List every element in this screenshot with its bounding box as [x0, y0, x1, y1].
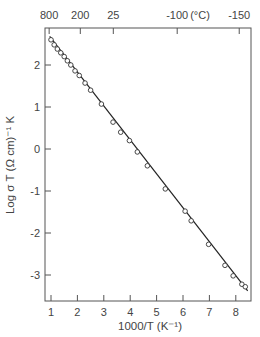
- top-tick-label: -150: [228, 9, 250, 21]
- y-tick-label: -3: [30, 269, 40, 281]
- data-point: [55, 47, 60, 52]
- data-point: [145, 164, 150, 169]
- data-point: [231, 274, 236, 279]
- top-tick-label: 25: [107, 9, 119, 21]
- top-tick-label: 800: [40, 9, 58, 21]
- y-axis-title: Log σ T (Ω cm)⁻¹ K: [4, 116, 16, 214]
- data-point: [223, 263, 228, 268]
- data-points: [49, 38, 248, 290]
- top-tick-label: 200: [71, 9, 89, 21]
- x-tick-label: 7: [206, 306, 212, 318]
- data-point: [183, 209, 188, 214]
- data-point: [65, 59, 70, 64]
- x-tick-label: 5: [154, 306, 160, 318]
- x-tick-label: 6: [180, 306, 186, 318]
- y-tick-label: -1: [30, 185, 40, 197]
- x-tick-label: 8: [233, 306, 239, 318]
- y-tick-label: -2: [30, 227, 40, 239]
- data-point: [163, 187, 168, 192]
- top-tick-label: -100: [166, 9, 188, 21]
- y-tick-label: 1: [34, 101, 40, 113]
- x-tick-label: 1: [48, 306, 54, 318]
- data-point: [58, 51, 63, 56]
- x-axis-title: 1000/T (K⁻¹): [118, 320, 182, 332]
- data-point: [73, 69, 78, 74]
- data-point: [62, 54, 67, 59]
- data-point: [189, 219, 194, 224]
- data-point: [69, 63, 74, 68]
- data-point: [52, 43, 57, 48]
- data-point: [135, 150, 140, 155]
- x-tick-label: 3: [101, 306, 107, 318]
- x-tick-label: 2: [74, 306, 80, 318]
- y-axis-ticks: 210-1-2-3: [30, 59, 51, 281]
- x-axis-ticks: 12345678: [48, 295, 239, 318]
- chart: 12345678 210-1-2-3 80020025-100-150 (°C)…: [0, 0, 260, 337]
- data-point: [118, 130, 123, 135]
- y-tick-label: 0: [34, 143, 40, 155]
- top-axis-ticks: 80020025-100-150: [40, 9, 250, 34]
- data-point: [206, 242, 211, 247]
- data-point: [83, 81, 88, 86]
- data-point: [99, 102, 104, 107]
- data-point: [127, 138, 132, 143]
- data-point: [111, 120, 116, 125]
- x-tick-label: 4: [127, 306, 133, 318]
- data-point: [88, 88, 93, 93]
- y-tick-label: 2: [34, 59, 40, 71]
- top-axis-unit-label: (°C): [190, 9, 210, 21]
- data-point: [243, 284, 248, 289]
- data-point: [77, 73, 82, 78]
- data-point: [49, 38, 54, 43]
